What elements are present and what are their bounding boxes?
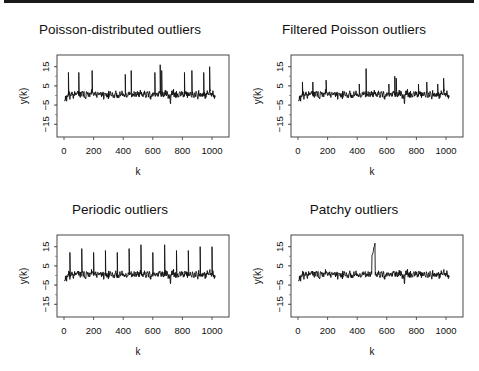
x-tick-label: 800 (174, 145, 190, 156)
y-tick-label: −15 (40, 296, 51, 312)
series-line (298, 69, 449, 104)
x-tick-label: 400 (115, 145, 131, 156)
x-tick-label: 1000 (201, 325, 222, 336)
x-tick-label: 600 (379, 325, 395, 336)
x-axis-label: k (136, 346, 142, 357)
panel-patchy-outliers: Patchy outliers 155−5−15y(k)020040060080… (234, 180, 474, 365)
y-axis-label: y(k) (18, 88, 29, 105)
x-tick-label: 0 (61, 325, 66, 336)
x-tick-label: 800 (408, 145, 424, 156)
plot-area: 155−5−15y(k)02004006008001000k (234, 180, 474, 365)
x-tick-label: 400 (349, 325, 365, 336)
x-tick-label: 200 (86, 325, 102, 336)
y-tick-label: 15 (274, 241, 285, 252)
x-tick-label: 800 (174, 325, 190, 336)
x-tick-label: 400 (349, 145, 365, 156)
plot-area: 155−5−15y(k)02004006008001000k (0, 180, 240, 365)
x-tick-label: 0 (295, 145, 300, 156)
y-tick-label: 5 (40, 83, 51, 88)
x-tick-label: 600 (145, 145, 161, 156)
y-tick-label: 5 (274, 83, 285, 88)
y-tick-label: 15 (40, 61, 51, 72)
y-tick-label: 15 (40, 241, 51, 252)
y-tick-label: 15 (274, 61, 285, 72)
y-tick-label: 5 (274, 263, 285, 268)
panel-filtered-poisson-outliers: Filtered Poisson outliers 155−5−15y(k)02… (234, 0, 474, 185)
x-axis-label: k (136, 166, 142, 177)
y-tick-label: −15 (274, 116, 285, 132)
y-tick-label: −5 (274, 100, 285, 111)
x-tick-label: 600 (145, 325, 161, 336)
panel-poisson-outliers: Poisson-distributed outliers 155−5−15y(k… (0, 0, 240, 185)
x-tick-label: 0 (61, 145, 66, 156)
x-tick-label: 1000 (435, 325, 456, 336)
x-tick-label: 800 (408, 325, 424, 336)
plot-area: 155−5−15y(k)02004006008001000k (0, 0, 240, 185)
y-tick-label: −5 (40, 100, 51, 111)
x-tick-label: 200 (320, 325, 336, 336)
y-tick-label: −15 (40, 116, 51, 132)
y-axis-label: y(k) (252, 268, 263, 285)
plot-area: 155−5−15y(k)02004006008001000k (234, 0, 474, 185)
series-line (64, 65, 215, 104)
x-tick-label: 400 (115, 325, 131, 336)
y-tick-label: 5 (40, 263, 51, 268)
x-tick-label: 200 (86, 145, 102, 156)
y-axis-label: y(k) (18, 268, 29, 285)
y-axis-label: y(k) (252, 88, 263, 105)
series-line (64, 245, 215, 284)
y-tick-label: −15 (274, 296, 285, 312)
x-tick-label: 1000 (201, 145, 222, 156)
y-tick-label: −5 (40, 280, 51, 291)
x-tick-label: 0 (295, 325, 300, 336)
x-axis-label: k (370, 166, 376, 177)
x-tick-label: 600 (379, 145, 395, 156)
panel-periodic-outliers: Periodic outliers 155−5−15y(k)0200400600… (0, 180, 240, 365)
x-tick-label: 200 (320, 145, 336, 156)
x-axis-label: k (370, 346, 376, 357)
x-tick-label: 1000 (435, 145, 456, 156)
y-tick-label: −5 (274, 280, 285, 291)
series-line (298, 243, 449, 284)
